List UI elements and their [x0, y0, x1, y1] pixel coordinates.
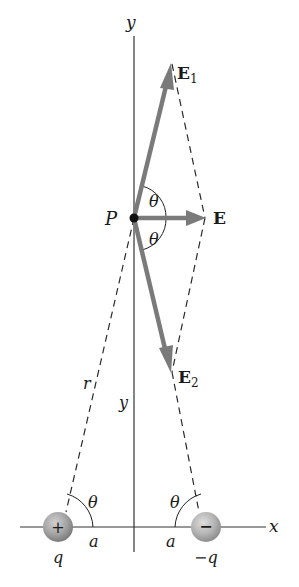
point-P-label: P: [104, 208, 118, 229]
E1-label: E1: [177, 63, 198, 86]
charge-q-label: q: [53, 548, 63, 567]
vector-E: [134, 210, 206, 226]
charge-neg-q-label: −q: [194, 548, 218, 567]
positive-charge: +: [43, 512, 73, 542]
negative-charge: −: [191, 512, 221, 542]
y-axis-label: y: [125, 12, 136, 32]
r-distance-label: r: [83, 374, 92, 393]
theta-left-charge-label: θ: [88, 493, 98, 512]
negative-charge-symbol: −: [199, 517, 212, 536]
a-left-label: a: [89, 532, 99, 551]
E2-label: E2: [178, 367, 199, 390]
dipole-field-diagram: + − y x P E1 E E2 θ θ θ θ r y a a q −q: [0, 0, 299, 587]
y-distance-label: y: [118, 393, 129, 412]
E-label: E: [213, 208, 226, 228]
positive-charge-symbol: +: [51, 518, 64, 537]
theta-lower-P-label: θ: [149, 230, 159, 249]
point-P-dot: [130, 214, 139, 223]
theta-right-charge-label: θ: [170, 493, 180, 512]
x-axis-label: x: [269, 516, 279, 536]
dashed-construction-lines: [66, 64, 205, 512]
theta-upper-P-label: θ: [149, 192, 159, 211]
a-right-label: a: [166, 532, 176, 551]
